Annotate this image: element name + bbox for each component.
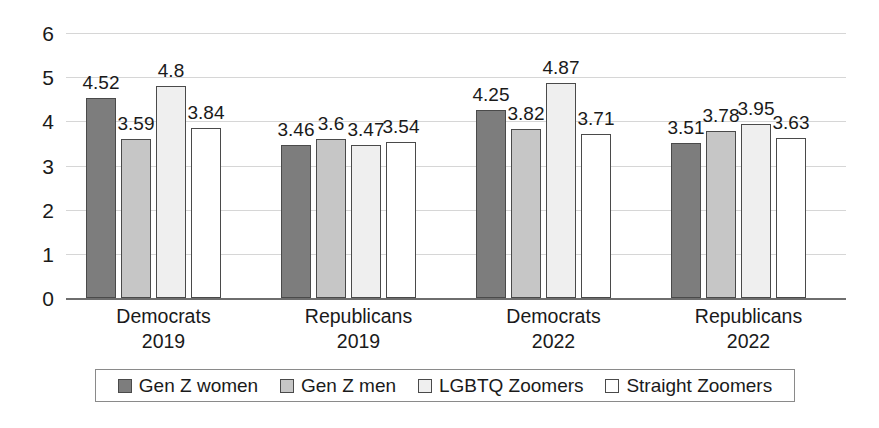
bar: 4.87 <box>546 83 576 298</box>
bar-rect <box>546 83 576 298</box>
bar-rect <box>281 145 311 298</box>
x-axis-category-line: Democrats <box>66 304 261 329</box>
bar-value-label: 3.63 <box>773 113 810 132</box>
bar-group: 3.513.783.953.63 <box>671 33 806 298</box>
x-axis-category-label: Republicans2022 <box>651 304 846 354</box>
bar-rect <box>351 145 381 298</box>
bar-value-label: 3.47 <box>348 120 385 139</box>
legend-item[interactable]: Gen Z women <box>118 376 258 395</box>
bar-rect <box>511 129 541 298</box>
bar-rect <box>121 139 151 298</box>
bar-value-label: 4.8 <box>158 61 184 80</box>
bar: 3.59 <box>121 139 151 298</box>
bar-rect <box>156 86 186 298</box>
y-axis-tick-label: 3 <box>42 155 54 176</box>
bar: 3.46 <box>281 145 311 298</box>
bar-value-label: 3.78 <box>703 106 740 125</box>
bar-rect <box>476 110 506 298</box>
bar: 3.71 <box>581 134 611 298</box>
x-axis-category-line: Republicans <box>651 304 846 329</box>
legend-swatch-icon <box>418 379 432 393</box>
legend-label: Gen Z men <box>301 376 396 395</box>
bar: 3.51 <box>671 143 701 298</box>
bar: 3.95 <box>741 124 771 298</box>
legend-swatch-icon <box>605 379 619 393</box>
y-axis-tick-label: 0 <box>42 288 54 309</box>
legend-swatch-icon <box>280 379 294 393</box>
bar-group: 4.253.824.873.71 <box>476 33 611 298</box>
bar-value-label: 3.51 <box>668 118 705 137</box>
x-axis-category-label: Republicans2019 <box>261 304 456 354</box>
bar: 3.82 <box>511 129 541 298</box>
bar-value-label: 4.52 <box>83 73 120 92</box>
bar-value-label: 3.6 <box>318 114 344 133</box>
bar-value-label: 3.54 <box>383 117 420 136</box>
bar: 3.54 <box>386 142 416 298</box>
bar-rect <box>386 142 416 298</box>
chart-legend: Gen Z womenGen Z menLGBTQ ZoomersStraigh… <box>95 369 795 402</box>
y-axis-tick-label: 2 <box>42 199 54 220</box>
legend-label: LGBTQ Zoomers <box>439 376 584 395</box>
x-axis-category-line: 2019 <box>261 329 456 354</box>
bar: 3.78 <box>706 131 736 298</box>
bar-value-label: 3.84 <box>188 103 225 122</box>
bar-rect <box>706 131 736 298</box>
x-axis-category-line: Republicans <box>261 304 456 329</box>
axis-baseline: 0 <box>66 298 846 300</box>
bar: 4.8 <box>156 86 186 298</box>
bar-rect <box>671 143 701 298</box>
bar: 4.25 <box>476 110 506 298</box>
legend-item[interactable]: LGBTQ Zoomers <box>418 376 584 395</box>
bar-rect <box>776 138 806 298</box>
bar: 3.6 <box>316 139 346 298</box>
legend-label: Straight Zoomers <box>626 376 772 395</box>
legend-item[interactable]: Straight Zoomers <box>605 376 772 395</box>
x-axis-category-line: Democrats <box>456 304 651 329</box>
bar-value-label: 3.71 <box>578 109 615 128</box>
bar-rect <box>316 139 346 298</box>
legend-item[interactable]: Gen Z men <box>280 376 396 395</box>
x-axis-category-label: Democrats2022 <box>456 304 651 354</box>
bar: 3.47 <box>351 145 381 298</box>
bar-rect <box>741 124 771 298</box>
bar-rect <box>86 98 116 298</box>
bar-group: 4.523.594.83.84 <box>86 33 221 298</box>
y-axis-tick-label: 6 <box>42 23 54 44</box>
legend-swatch-icon <box>118 379 132 393</box>
bar-chart: 01234564.523.594.83.843.463.63.473.544.2… <box>0 0 879 428</box>
y-axis-tick-label: 5 <box>42 67 54 88</box>
bar: 4.52 <box>86 98 116 298</box>
legend-label: Gen Z women <box>139 376 258 395</box>
x-axis-category-line: 2022 <box>456 329 651 354</box>
bar-rect <box>581 134 611 298</box>
bar-rect <box>191 128 221 298</box>
y-axis-tick-label: 1 <box>42 243 54 264</box>
bar: 3.63 <box>776 138 806 298</box>
bar-value-label: 4.25 <box>473 85 510 104</box>
bar-value-label: 3.59 <box>118 114 155 133</box>
bar-value-label: 3.46 <box>278 120 315 139</box>
bar-value-label: 4.87 <box>543 58 580 77</box>
bar: 3.84 <box>191 128 221 298</box>
plot-area: 01234564.523.594.83.843.463.63.473.544.2… <box>66 33 846 298</box>
bar-value-label: 3.82 <box>508 104 545 123</box>
x-axis-category-line: 2019 <box>66 329 261 354</box>
x-axis-category-label: Democrats2019 <box>66 304 261 354</box>
bar-value-label: 3.95 <box>738 99 775 118</box>
x-axis-category-line: 2022 <box>651 329 846 354</box>
y-axis-tick-label: 4 <box>42 111 54 132</box>
bar-group: 3.463.63.473.54 <box>281 33 416 298</box>
